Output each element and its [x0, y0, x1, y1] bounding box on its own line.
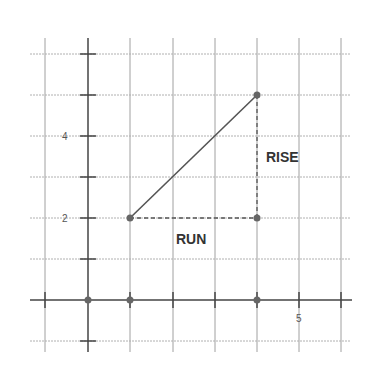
vertical-gridlines [45, 38, 341, 352]
y-tick-label-2: 2 [62, 213, 68, 224]
point-start [127, 215, 134, 222]
point-corner [254, 215, 261, 222]
run-label: RUN [176, 231, 206, 247]
point-origin [85, 297, 92, 304]
point-x4 [254, 297, 261, 304]
point-x1 [127, 297, 134, 304]
coordinate-plane: 4 2 5 RUN RISE [0, 0, 374, 380]
horizontal-gridlines [30, 54, 350, 341]
slope-segment [130, 95, 257, 218]
y-tick-label-4: 4 [62, 131, 68, 142]
x-tick-label-5: 5 [296, 313, 302, 324]
point-end [254, 92, 261, 99]
rise-label: RISE [266, 149, 299, 165]
